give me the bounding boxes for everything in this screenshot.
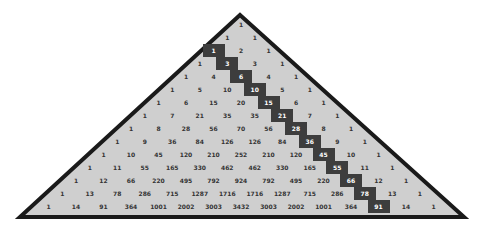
highlighted-cell: 21 bbox=[271, 109, 293, 122]
triangle-cell: 1 bbox=[161, 83, 183, 96]
triangle-cell: 210 bbox=[203, 148, 225, 161]
triangle-cell: 1 bbox=[216, 31, 238, 44]
highlighted-cell: 91 bbox=[368, 200, 390, 213]
triangle-cell: 364 bbox=[120, 200, 142, 213]
triangle-cell: 35 bbox=[244, 109, 266, 122]
highlighted-cell: 3 bbox=[216, 57, 238, 70]
triangle-cell: 330 bbox=[189, 161, 211, 174]
triangle-cell: 924 bbox=[230, 174, 252, 187]
triangle-cell: 7 bbox=[161, 109, 183, 122]
triangle-cell: 56 bbox=[203, 122, 225, 135]
triangle-cell: 286 bbox=[134, 187, 156, 200]
triangle-cell: 1 bbox=[423, 200, 445, 213]
triangle-cell: 21 bbox=[189, 109, 211, 122]
triangle-cell: 1 bbox=[175, 70, 197, 83]
triangle-cell: 330 bbox=[271, 161, 293, 174]
triangle-cell: 2 bbox=[230, 44, 252, 57]
triangle-cell: 126 bbox=[244, 135, 266, 148]
triangle-cell: 165 bbox=[299, 161, 321, 174]
triangle-cell: 1287 bbox=[189, 187, 211, 200]
triangle-cell: 1 bbox=[51, 187, 73, 200]
highlighted-cell: 36 bbox=[299, 135, 321, 148]
triangle-cell: 1 bbox=[244, 31, 266, 44]
triangle-cell: 1287 bbox=[271, 187, 293, 200]
triangle-cell: 715 bbox=[299, 187, 321, 200]
triangle-cell: 1 bbox=[93, 148, 115, 161]
triangle-cell: 6 bbox=[175, 96, 197, 109]
triangle-cell: 220 bbox=[148, 174, 170, 187]
triangle-cell: 35 bbox=[216, 109, 238, 122]
triangle-cell: 10 bbox=[340, 148, 362, 161]
triangle-cell: 91 bbox=[93, 200, 115, 213]
triangle-cell: 78 bbox=[106, 187, 128, 200]
triangle-cell: 2002 bbox=[175, 200, 197, 213]
triangle-cell: 1 bbox=[299, 83, 321, 96]
triangle-cell: 1 bbox=[354, 135, 376, 148]
triangle-cell: 4 bbox=[203, 70, 225, 83]
highlighted-cell: 55 bbox=[326, 161, 348, 174]
triangle-cell: 5 bbox=[189, 83, 211, 96]
triangle-cell: 6 bbox=[285, 96, 307, 109]
triangle-cell: 1 bbox=[106, 135, 128, 148]
triangle-cell: 1 bbox=[368, 148, 390, 161]
triangle-cell: 20 bbox=[230, 96, 252, 109]
triangle-cell: 28 bbox=[175, 122, 197, 135]
triangle-cell: 8 bbox=[313, 122, 335, 135]
triangle-cell: 11 bbox=[106, 161, 128, 174]
triangle-cell: 3003 bbox=[203, 200, 225, 213]
triangle-cell: 1716 bbox=[216, 187, 238, 200]
triangle-cell: 2002 bbox=[285, 200, 307, 213]
triangle-cell: 4 bbox=[258, 70, 280, 83]
triangle-cell: 1 bbox=[230, 18, 252, 31]
triangle-cell: 792 bbox=[258, 174, 280, 187]
triangle-cell: 1 bbox=[381, 161, 403, 174]
triangle-cell: 3432 bbox=[230, 200, 252, 213]
triangle-cell: 364 bbox=[340, 200, 362, 213]
triangle-cell: 5 bbox=[271, 83, 293, 96]
triangle-cell: 1716 bbox=[244, 187, 266, 200]
triangle-cell: 7 bbox=[299, 109, 321, 122]
triangle-cell: 15 bbox=[203, 96, 225, 109]
triangle-cell: 8 bbox=[148, 122, 170, 135]
triangle-cell: 1001 bbox=[313, 200, 335, 213]
highlighted-cell: 66 bbox=[340, 174, 362, 187]
triangle-cell: 1 bbox=[65, 174, 87, 187]
triangle-cell: 9 bbox=[326, 135, 348, 148]
triangle-cell: 3 bbox=[244, 57, 266, 70]
triangle-cell: 1 bbox=[120, 122, 142, 135]
triangle-cell: 165 bbox=[161, 161, 183, 174]
triangle-cell: 13 bbox=[381, 187, 403, 200]
triangle-cell: 56 bbox=[258, 122, 280, 135]
triangle-cell: 13 bbox=[79, 187, 101, 200]
triangle-cell: 120 bbox=[285, 148, 307, 161]
triangle-cell: 1 bbox=[313, 96, 335, 109]
triangle-cell: 10 bbox=[120, 148, 142, 161]
triangle-cell: 1 bbox=[285, 70, 307, 83]
triangle-cell: 1 bbox=[340, 122, 362, 135]
triangle-cell: 1 bbox=[395, 174, 417, 187]
triangle-cell: 1 bbox=[409, 187, 431, 200]
triangle-cell: 1001 bbox=[148, 200, 170, 213]
triangle-cell: 70 bbox=[230, 122, 252, 135]
triangle-cell: 126 bbox=[216, 135, 238, 148]
triangle-cell: 715 bbox=[161, 187, 183, 200]
triangle-cell: 1 bbox=[79, 161, 101, 174]
triangle-cell: 55 bbox=[134, 161, 156, 174]
triangle-cell: 1 bbox=[326, 109, 348, 122]
triangle-cell: 210 bbox=[258, 148, 280, 161]
triangle-cell: 84 bbox=[271, 135, 293, 148]
triangle-cell: 45 bbox=[148, 148, 170, 161]
highlighted-cell: 28 bbox=[285, 122, 307, 135]
triangle-cell: 495 bbox=[175, 174, 197, 187]
highlighted-cell: 15 bbox=[258, 96, 280, 109]
triangle-cell: 1 bbox=[148, 96, 170, 109]
triangle-cell: 462 bbox=[216, 161, 238, 174]
triangle-cell: 286 bbox=[326, 187, 348, 200]
highlighted-cell: 78 bbox=[354, 187, 376, 200]
triangle-cell: 1 bbox=[134, 109, 156, 122]
triangle-cell: 11 bbox=[354, 161, 376, 174]
triangle-cell: 10 bbox=[216, 83, 238, 96]
triangle-cell: 462 bbox=[244, 161, 266, 174]
triangle-cell: 792 bbox=[203, 174, 225, 187]
triangle-cell: 1 bbox=[258, 44, 280, 57]
